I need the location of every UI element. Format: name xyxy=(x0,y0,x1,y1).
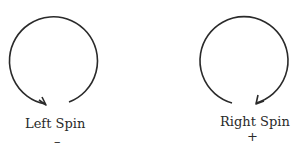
right-spin-label: Right Spin xyxy=(220,114,290,129)
right-spin-sign: + xyxy=(247,129,258,144)
left-spin-label: Left Spin xyxy=(25,116,85,131)
left-spin-sign: – xyxy=(54,134,61,149)
left-spin-arrow-icon xyxy=(9,17,97,105)
spin-diagram xyxy=(0,0,308,156)
right-spin-arrow-icon xyxy=(200,17,288,104)
